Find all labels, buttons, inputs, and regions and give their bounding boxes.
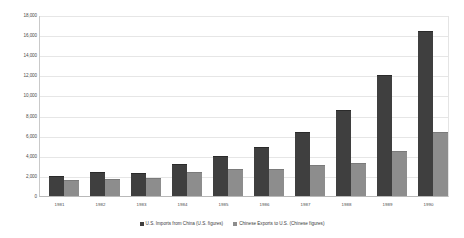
bar-exports [433, 132, 448, 196]
x-axis-tick-label: 1983 [122, 202, 162, 207]
y-axis-tick-label: 14,000 [3, 54, 37, 59]
legend-item: U.S. Imports from China (U.S. figures) [140, 221, 224, 227]
y-axis-tick-label: 16,000 [3, 34, 37, 39]
x-axis-tick-label: 1981 [40, 202, 80, 207]
x-axis-tick-label: 1987 [286, 202, 326, 207]
legend-label: U.S. Imports from China (U.S. figures) [146, 221, 224, 227]
chart-legend: U.S. Imports from China (U.S. figures)Ch… [0, 221, 464, 227]
bar-group [254, 16, 284, 196]
x-axis-tick-label: 1988 [327, 202, 367, 207]
bar-group [336, 16, 366, 196]
plot-area [39, 16, 449, 197]
bar-exports [310, 165, 325, 196]
y-axis-tick-label: 10,000 [3, 94, 37, 99]
bar-exports [351, 163, 366, 196]
bar-imports [172, 164, 187, 196]
bar-imports [418, 31, 433, 196]
bar-imports [254, 147, 269, 196]
bar-imports [90, 172, 105, 196]
y-axis-tick-label: 12,000 [3, 74, 37, 79]
bar-group [131, 16, 161, 196]
bar-group [49, 16, 79, 196]
x-axis-tick-label: 1982 [81, 202, 121, 207]
y-axis-tick-label: 6,000 [3, 135, 37, 140]
bar-exports [146, 178, 161, 196]
x-axis-tick-label: 1989 [368, 202, 408, 207]
y-axis-tick-label: 0 [3, 195, 37, 200]
bar-exports [64, 180, 79, 196]
legend-swatch-exports-icon [233, 222, 237, 226]
y-axis-tick-label: 18,000 [3, 14, 37, 19]
y-axis-tick-label: 8,000 [3, 115, 37, 120]
bar-imports [336, 110, 351, 196]
bar-exports [269, 169, 284, 196]
legend-item: Chinese Exports to U.S. (Chinese figures… [233, 221, 324, 227]
x-axis-tick-label: 1984 [163, 202, 203, 207]
y-axis-tick-label: 4,000 [3, 155, 37, 160]
bar-group [418, 16, 448, 196]
bar-imports [295, 132, 310, 196]
y-axis-tick-label: 2,000 [3, 175, 37, 180]
bar-group [172, 16, 202, 196]
bar-exports [228, 169, 243, 196]
bar-imports [213, 156, 228, 196]
bar-group [213, 16, 243, 196]
bar-exports [105, 179, 120, 196]
bar-chart: 18,00016,00014,00012,00010,0008,0006,000… [0, 0, 464, 238]
bar-exports [187, 172, 202, 196]
legend-swatch-imports-icon [140, 222, 144, 226]
x-axis-tick-label: 1986 [245, 202, 285, 207]
x-axis-tick-label: 1990 [409, 202, 449, 207]
bar-group [377, 16, 407, 196]
bar-exports [392, 151, 407, 196]
bar-imports [131, 173, 146, 196]
bar-imports [49, 176, 64, 196]
bar-group [90, 16, 120, 196]
bar-group [295, 16, 325, 196]
bar-imports [377, 75, 392, 196]
x-axis-tick-label: 1985 [204, 202, 244, 207]
legend-label: Chinese Exports to U.S. (Chinese figures… [239, 221, 324, 227]
